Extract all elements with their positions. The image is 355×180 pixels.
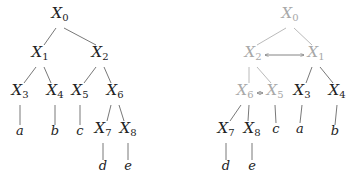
left-node-X1: X1	[30, 43, 48, 62]
original-tree: X0X1X2X3X4X5X6abcX7X8de	[10, 4, 136, 173]
edge-X0-X2	[257, 28, 286, 45]
edge-X6-X7	[230, 105, 241, 121]
right-node-X6: X6	[235, 81, 253, 100]
edge-X4-b	[335, 105, 337, 125]
left-node-X7: X7	[93, 119, 111, 138]
right-node-X5: X5	[265, 81, 283, 100]
left-node-X6: X6	[105, 81, 123, 100]
edge-X2-X5	[84, 67, 96, 83]
left-node-X0: X0	[50, 4, 68, 23]
edge-X1-X3	[24, 67, 36, 83]
right-node-X8: X8	[242, 119, 260, 138]
left-node-c: c	[76, 123, 84, 138]
left-node-b: b	[51, 123, 59, 138]
edge-X6-X7	[107, 105, 111, 121]
right-node-X2: X2	[243, 43, 261, 62]
transformed-tree: X0X2X1X6X5X3X4X7X8cabde	[216, 4, 345, 173]
left-node-X8: X8	[118, 119, 136, 138]
right-node-a: a	[296, 121, 304, 136]
left-node-X3: X3	[10, 81, 28, 100]
right-node-e: e	[248, 158, 256, 173]
right-node-X1: X1	[306, 43, 324, 62]
left-node-e: e	[124, 158, 132, 173]
left-node-X4: X4	[45, 81, 63, 100]
edge-X0-X1	[44, 28, 56, 45]
left-node-X2: X2	[90, 43, 108, 62]
left-node-a: a	[16, 123, 24, 138]
right-node-X3: X3	[292, 81, 310, 100]
right-node-X7: X7	[216, 119, 234, 138]
right-node-d: d	[222, 158, 230, 173]
edge-X1-X3	[306, 67, 312, 83]
right-node-b: b	[331, 123, 339, 138]
right-node-X0: X0	[280, 4, 298, 23]
right-node-c: c	[272, 121, 280, 136]
left-node-X5: X5	[70, 81, 88, 100]
right-node-X4: X4	[327, 81, 345, 100]
tree-rotation-diagram: X0X1X2X3X4X5X6abcX7X8de X0X2X1X6X5X3X4X7…	[0, 0, 355, 180]
left-node-d: d	[99, 158, 107, 173]
